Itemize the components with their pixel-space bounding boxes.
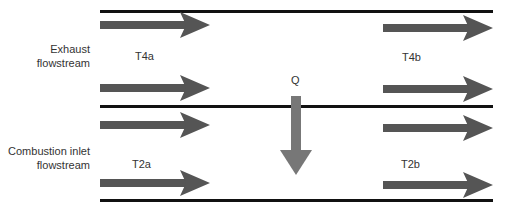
exhaust-outlet-arrow-bottom-icon bbox=[383, 76, 493, 102]
t2b-label: T2b bbox=[401, 157, 420, 171]
combustion-outlet-arrow-bottom-icon bbox=[383, 172, 493, 198]
combustion-label-line1: Combustion inlet bbox=[0, 144, 90, 158]
heat-transfer-arrow-icon bbox=[280, 96, 312, 175]
arrows-layer bbox=[0, 0, 507, 213]
t2a-label: T2a bbox=[132, 157, 151, 171]
exhaust-label-line2: flowstream bbox=[0, 56, 90, 70]
q-label: Q bbox=[291, 73, 300, 87]
exhaust-inlet-arrow-bottom-icon bbox=[100, 75, 210, 101]
exhaust-label-line1: Exhaust bbox=[0, 42, 90, 56]
exhaust-outlet-arrow-top-icon bbox=[383, 15, 493, 41]
combustion-stream-label: Combustion inlet flowstream bbox=[0, 144, 90, 172]
exhaust-stream-label: Exhaust flowstream bbox=[0, 42, 90, 70]
combustion-inlet-arrow-top-icon bbox=[100, 112, 210, 138]
exhaust-inlet-arrow-top-icon bbox=[100, 12, 210, 38]
t4a-label: T4a bbox=[135, 49, 154, 63]
t4b-label: T4b bbox=[402, 50, 421, 64]
combustion-label-line2: flowstream bbox=[0, 158, 90, 172]
combustion-outlet-arrow-top-icon bbox=[383, 115, 493, 141]
combustion-inlet-arrow-bottom-icon bbox=[100, 170, 210, 196]
